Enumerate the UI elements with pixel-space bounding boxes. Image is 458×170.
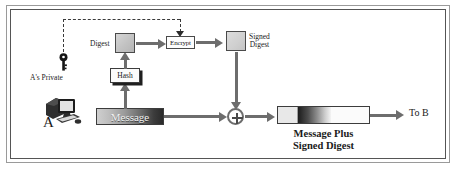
signed-digest-block: [226, 31, 246, 51]
message-to-hash-line: [124, 90, 127, 109]
private-key-label: A's Private: [30, 74, 63, 82]
destination-label: To B: [409, 108, 429, 119]
message-to-combiner-line: [164, 115, 221, 118]
message-block: Message: [96, 108, 164, 125]
signed-digest-to-combiner-line: [235, 52, 238, 103]
plus-vertical-bar: [236, 113, 238, 124]
combined-caption: Message PlusSigned Digest: [277, 128, 370, 152]
combined-to-destination-arrowhead: [396, 110, 404, 120]
key-path-horizontal-top: [63, 19, 180, 20]
encrypt-to-signed-digest-line: [196, 41, 216, 44]
message-to-hash-arrowhead: [120, 83, 130, 91]
message-label: Message: [111, 111, 150, 123]
key-icon: [56, 53, 71, 71]
encrypt-block: Encrypt: [166, 36, 195, 49]
hash-label: Hash: [117, 71, 132, 80]
key-icon-svg: [56, 53, 71, 71]
combiner-to-combined-line: [245, 115, 269, 118]
encrypt-label: Encrypt: [170, 39, 191, 47]
combined-segment-signature-gradient: [298, 107, 331, 123]
signed-digest-label-line2: Digest: [250, 40, 270, 49]
message-to-combiner-arrowhead: [219, 112, 227, 122]
diagram-canvas: A's Private A Message Hash D: [0, 0, 458, 170]
digest-to-encrypt-line: [136, 42, 159, 45]
hash-to-digest-line: [124, 59, 127, 69]
hash-to-digest-arrowhead: [120, 52, 130, 60]
digest-label: Digest: [90, 40, 110, 48]
combined-to-destination-line: [370, 114, 398, 117]
digest-to-encrypt-arrowhead: [158, 39, 166, 49]
digest-block: [115, 33, 135, 53]
message-plus-signed-digest-block: [277, 106, 370, 124]
combiner-to-combined-arrowhead: [267, 112, 275, 122]
hash-block: Hash: [110, 68, 140, 83]
concatenation-operator: [227, 108, 244, 125]
combined-segment-tail: [331, 107, 369, 123]
combined-caption-line2: Signed Digest: [293, 140, 354, 151]
signed-digest-label: SignedDigest: [249, 33, 270, 48]
combined-segment-message: [278, 107, 298, 123]
encrypt-to-signed-digest-arrowhead: [215, 38, 223, 48]
combined-caption-line1: Message Plus: [294, 128, 354, 139]
actor-a-label: A: [43, 114, 54, 130]
